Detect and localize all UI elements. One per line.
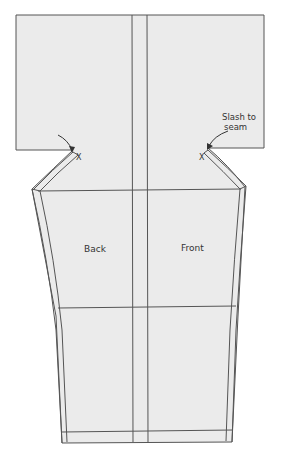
back-label: Back	[84, 244, 106, 254]
slash-note-line1: Slash to	[222, 112, 282, 122]
pattern-outline	[16, 15, 264, 443]
slash-note: Slash to seam	[222, 112, 282, 132]
front-label: Front	[181, 243, 204, 253]
pattern-diagram	[0, 0, 282, 457]
slash-note-line2: seam	[222, 122, 282, 132]
right-slash-mark: X	[199, 153, 204, 163]
left-slash-mark: X	[76, 153, 81, 163]
